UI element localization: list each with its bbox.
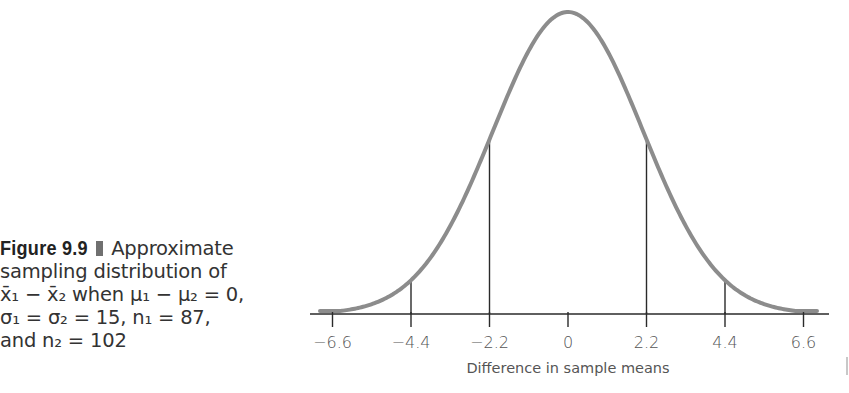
x-tick-label: 2.2: [634, 333, 659, 352]
x-tick-label: −2.2: [470, 333, 509, 352]
x-axis-title: Difference in sample means: [466, 360, 669, 376]
x-axis-tick-labels: −6.6−4.4−2.202.24.46.6: [313, 333, 816, 352]
normal-distribution-chart: −6.6−4.4−2.202.24.46.6 Difference in sam…: [0, 0, 849, 393]
x-tick-label: 6.6: [791, 333, 816, 352]
x-tick-label: 4.4: [712, 333, 737, 352]
x-tick-label: 0: [563, 333, 573, 352]
x-tick-label: −4.4: [392, 333, 431, 352]
edge-artifact: [846, 357, 848, 375]
x-tick-label: −6.6: [313, 333, 352, 352]
normal-curve: [320, 12, 817, 311]
reference-lines: [411, 139, 725, 314]
